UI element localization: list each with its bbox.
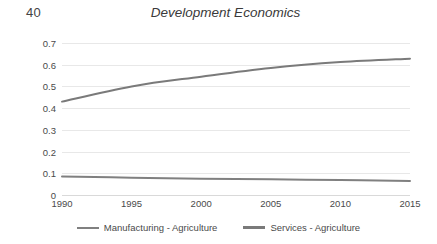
x-tick-label: 2010	[315, 198, 365, 209]
legend-label-services: Services - Agriculture	[270, 222, 360, 233]
y-tick-label: 0.6	[16, 59, 56, 70]
series-line	[62, 59, 410, 102]
legend-line-icon-services	[243, 226, 265, 229]
chart-title: Development Economics	[0, 5, 437, 20]
legend-item-services[interactable]: Services - Agriculture	[243, 222, 360, 233]
series-lines	[62, 43, 410, 195]
x-tick-label: 1995	[107, 198, 157, 209]
y-tick-label: 0.2	[16, 146, 56, 157]
legend-label-manufacturing: Manufacturing - Agriculture	[104, 222, 218, 233]
x-tick-label: 1990	[37, 198, 87, 209]
y-tick-label: 0.1	[16, 168, 56, 179]
series-line	[62, 177, 410, 181]
chart-legend: Manufacturing - Agriculture Services - A…	[0, 222, 437, 233]
legend-item-manufacturing[interactable]: Manufacturing - Agriculture	[77, 222, 218, 233]
x-tick-label: 2000	[176, 198, 226, 209]
y-tick-label: 0.5	[16, 81, 56, 92]
chart-plot-area: 00.10.20.30.40.50.60.7 19901995200020052…	[0, 30, 437, 210]
legend-line-icon-manufacturing	[77, 227, 99, 229]
plot-region	[62, 43, 410, 195]
y-tick-label: 0.3	[16, 124, 56, 135]
y-tick-label: 0.4	[16, 103, 56, 114]
x-tick-label: 2015	[385, 198, 435, 209]
x-tick-label: 2005	[246, 198, 296, 209]
y-tick-label: 0.7	[16, 38, 56, 49]
gridline-0	[62, 195, 410, 196]
